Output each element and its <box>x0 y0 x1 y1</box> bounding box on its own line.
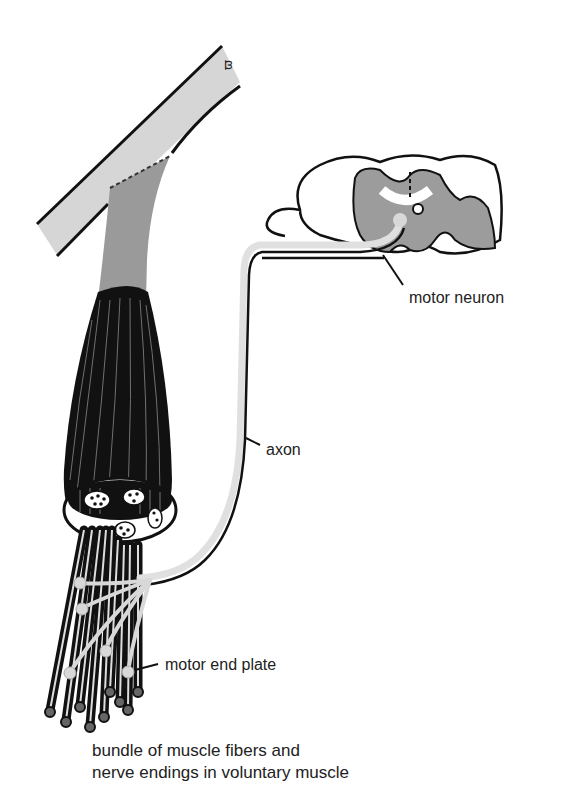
label-axon: axon <box>266 440 301 459</box>
diagram-canvas: ϖ <box>0 0 567 800</box>
svg-text:ϖ: ϖ <box>221 60 235 70</box>
muscle-belly <box>64 286 176 542</box>
label-motor-neuron: motor neuron <box>409 288 504 307</box>
motor-neuron-leader <box>383 255 403 285</box>
caption-line-1: bundle of muscle fibers and <box>92 740 349 762</box>
label-motor-end-plate: motor end plate <box>165 655 276 674</box>
axon-leader <box>246 438 260 445</box>
caption-line-2: nerve endings in voluntary muscle <box>92 762 349 784</box>
muscle-fibers <box>45 530 143 732</box>
caption: bundle of muscle fibers and nerve ending… <box>92 740 349 784</box>
